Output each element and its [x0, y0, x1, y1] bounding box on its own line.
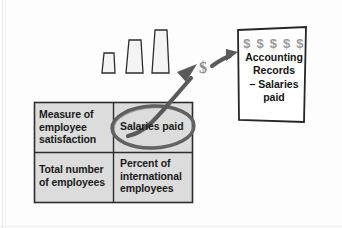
document-entry: – Salaries paid — [241, 78, 307, 104]
cell-line: international — [120, 170, 182, 183]
chimney-medium — [126, 40, 143, 73]
cell-line: Percent of — [120, 157, 182, 170]
cell-line: employee — [39, 121, 96, 134]
document-dollar-row: $ $ $ $ $ — [243, 37, 305, 50]
cell-measure-of-employee-satisfaction: Measure of employee satisfaction — [39, 108, 96, 146]
document-title-line: Records — [241, 64, 307, 77]
cell-line: Salaries paid — [120, 120, 183, 133]
document-title-line: Accounting — [241, 51, 307, 64]
dollar-to-document-arrow — [212, 49, 238, 66]
dollar-sign-marker: $ — [199, 59, 207, 77]
cell-percent-of-international-employees: Percent of international employees — [120, 157, 182, 195]
document-title: Accounting Records — [241, 51, 307, 77]
cell-line: satisfaction — [39, 133, 96, 146]
cell-line: employees — [120, 182, 182, 195]
cell-line: of employees — [39, 176, 105, 189]
cell-line: Measure of — [39, 108, 96, 121]
document-entry-line: – Salaries — [241, 78, 307, 91]
chimney-short — [102, 53, 115, 73]
cell-salaries-paid: Salaries paid — [120, 120, 183, 133]
diagram-canvas: Measure of employee satisfaction Salarie… — [0, 0, 342, 228]
chimney-tall — [152, 30, 169, 73]
cell-line: Total number — [39, 163, 105, 176]
document-entry-line: paid — [241, 91, 307, 104]
cell-total-number-of-employees: Total number of employees — [39, 163, 105, 188]
